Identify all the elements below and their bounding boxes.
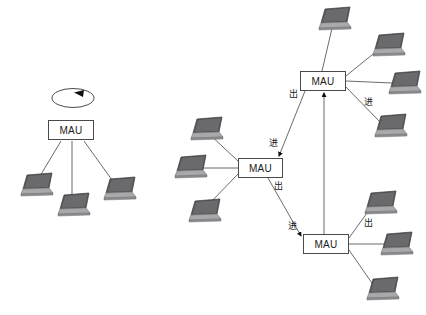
laptop-icon[interactable] bbox=[364, 276, 402, 302]
laptop-icon[interactable] bbox=[372, 113, 410, 139]
flow-label-in-bottom: 进 bbox=[288, 222, 297, 231]
flow-label-out-top: 出 bbox=[289, 90, 298, 99]
laptop-icon[interactable] bbox=[18, 172, 56, 198]
laptop-icon[interactable] bbox=[188, 116, 226, 142]
mau-node-top[interactable]: MAU bbox=[300, 71, 346, 91]
laptop-icon[interactable] bbox=[186, 198, 224, 224]
laptop-icon[interactable] bbox=[55, 192, 93, 218]
mau-node-label: MAU bbox=[59, 125, 82, 136]
ring-loop-icon bbox=[52, 89, 94, 108]
ring-loop-arrow-icon bbox=[74, 90, 84, 97]
network-diagram: MAU MAU MAU MAU 出 进 出 进 出 进 bbox=[0, 0, 426, 315]
laptop-icon[interactable] bbox=[172, 154, 210, 180]
laptop-icon[interactable] bbox=[101, 176, 139, 202]
mau-node-left[interactable]: MAU bbox=[48, 120, 94, 140]
mau-node-label: MAU bbox=[314, 239, 337, 250]
ring-link-top-to-middle bbox=[279, 91, 305, 156]
flow-label-in-middle: 进 bbox=[269, 139, 278, 148]
mau-node-middle[interactable]: MAU bbox=[238, 158, 283, 178]
mau-node-bottom[interactable]: MAU bbox=[303, 234, 349, 254]
mau-node-label: MAU bbox=[249, 163, 272, 174]
laptop-icon[interactable] bbox=[316, 6, 354, 32]
mau-node-label: MAU bbox=[311, 76, 334, 87]
flow-label-in-top: 进 bbox=[364, 98, 373, 107]
edge-mau-left-laptop-3 bbox=[84, 141, 112, 180]
laptop-icon[interactable] bbox=[362, 190, 400, 216]
left-cluster-self-loop bbox=[52, 89, 94, 108]
flow-label-out-middle: 出 bbox=[274, 182, 283, 191]
laptop-icon[interactable] bbox=[386, 70, 424, 96]
laptop-icon[interactable] bbox=[370, 32, 408, 58]
flow-label-out-bottom: 出 bbox=[364, 219, 373, 228]
laptop-icon[interactable] bbox=[378, 231, 416, 257]
edge-mau-left-laptop-1 bbox=[40, 141, 61, 176]
connection-lines-layer bbox=[0, 0, 426, 315]
